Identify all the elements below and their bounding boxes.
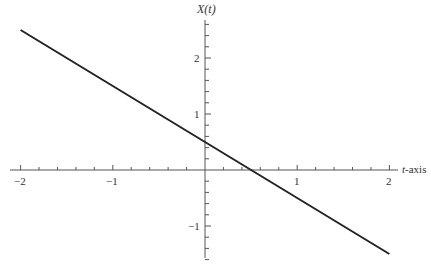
y-tick-label: 2	[194, 52, 200, 64]
x-tick-label: 1	[294, 175, 300, 187]
x-tick-label: −1	[106, 175, 118, 187]
x-axis-label: t-axis	[402, 163, 426, 175]
x-tick-label: −2	[14, 175, 26, 187]
y-axis-label-text: X(t)	[197, 2, 216, 16]
y-tick-label: −1	[188, 220, 200, 232]
x-axis-suffix: -axis	[405, 163, 426, 175]
y-axis-label: X(t)	[197, 2, 216, 17]
plot-area	[0, 0, 431, 268]
y-tick-label: 1	[194, 108, 200, 120]
x-tick-label: 2	[386, 175, 392, 187]
